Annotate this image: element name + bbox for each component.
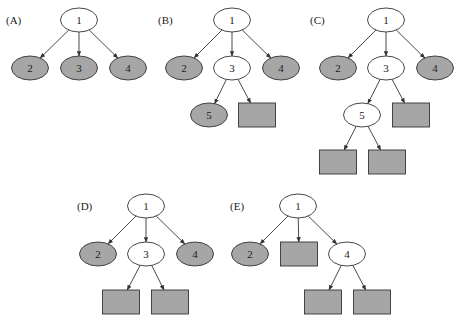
node-label: 5 xyxy=(359,109,365,121)
node-label: 3 xyxy=(143,248,149,260)
panel-label: (E) xyxy=(230,200,244,213)
edge-4-to-r3 xyxy=(353,265,366,290)
panel-label: (A) xyxy=(6,14,22,27)
edge-5-to-r3 xyxy=(368,126,381,150)
node-label: 3 xyxy=(383,62,389,74)
leaf-rect-node xyxy=(393,103,430,127)
node-label: 2 xyxy=(95,248,101,260)
panel-label: (D) xyxy=(77,200,93,213)
node-label: 4 xyxy=(278,62,284,74)
edge-1-to-2 xyxy=(108,216,136,244)
node-label: 5 xyxy=(206,109,212,121)
node-label: 3 xyxy=(76,62,82,74)
leaf-rect-node xyxy=(354,290,391,314)
panel-a: (A)1234 xyxy=(6,8,147,80)
node-label: 3 xyxy=(229,62,235,74)
node-label: 1 xyxy=(229,14,235,26)
edge-1-to-2 xyxy=(194,30,222,58)
edge-4-to-r2 xyxy=(329,265,341,290)
panel-e: (E)124 xyxy=(230,194,391,314)
edge-1-to-4 xyxy=(396,30,425,58)
panel-b: (B)12345 xyxy=(158,8,300,127)
node-label: 4 xyxy=(344,248,350,260)
edge-3-to-r1 xyxy=(127,265,140,290)
edge-1-to-2 xyxy=(260,216,288,244)
panels-layer: (A)1234(B)12345(C)12345(D)1234(E)124 xyxy=(6,8,454,314)
leaf-rect-node xyxy=(369,150,406,174)
panel-label: (C) xyxy=(310,14,325,27)
edge-3-to-r1 xyxy=(392,79,405,103)
node-label: 1 xyxy=(383,14,389,26)
panel-c: (C)12345 xyxy=(310,8,454,174)
node-label: 1 xyxy=(295,200,301,212)
edge-1-to-4 xyxy=(242,30,271,58)
leaf-rect-node xyxy=(320,150,357,174)
node-label: 2 xyxy=(181,62,187,74)
edge-3-to-5 xyxy=(215,79,227,103)
node-label: 4 xyxy=(432,62,438,74)
node-label: 4 xyxy=(125,62,131,74)
leaf-rect-node xyxy=(239,103,276,127)
edge-5-to-r2 xyxy=(344,126,356,150)
edge-3-to-r1 xyxy=(238,79,251,103)
leaf-rect-node xyxy=(305,290,342,314)
panel-d: (D)1234 xyxy=(77,194,214,314)
edge-3-to-r2 xyxy=(152,265,164,290)
node-label: 1 xyxy=(76,14,82,26)
diagram-svg: (A)1234(B)12345(C)12345(D)1234(E)124 xyxy=(0,0,463,327)
edge-3-to-5 xyxy=(368,79,380,103)
node-label: 2 xyxy=(247,248,253,260)
node-label: 2 xyxy=(335,62,341,74)
leaf-rect-node xyxy=(281,242,318,266)
tree-diagram-figure: (A)1234(B)12345(C)12345(D)1234(E)124 xyxy=(0,0,463,327)
node-label: 1 xyxy=(143,200,149,212)
panel-label: (B) xyxy=(158,14,173,27)
leaf-rect-node xyxy=(152,290,189,314)
edge-1-to-4 xyxy=(156,216,185,244)
edge-1-to-r1 xyxy=(298,218,299,242)
edge-1-to-2 xyxy=(348,30,376,58)
node-label: 2 xyxy=(27,62,33,74)
edge-1-to-4 xyxy=(89,30,118,58)
edge-1-to-2 xyxy=(40,30,69,58)
leaf-rect-node xyxy=(103,290,140,314)
edge-1-to-4 xyxy=(308,216,337,244)
node-label: 4 xyxy=(192,248,198,260)
